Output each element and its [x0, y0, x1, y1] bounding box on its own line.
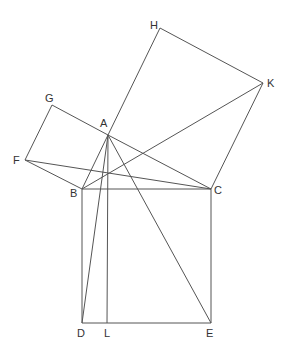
label-G: G: [45, 93, 54, 104]
label-D: D: [77, 328, 85, 339]
segment-AE: [108, 135, 211, 323]
label-B: B: [70, 188, 77, 199]
label-C: C: [214, 185, 222, 196]
segment-HK: [160, 28, 263, 83]
label-L: L: [104, 328, 110, 339]
label-H: H: [150, 20, 158, 31]
label-A: A: [100, 118, 107, 129]
segment-GF: [25, 105, 52, 160]
label-F: F: [13, 155, 20, 166]
segment-AL: [107, 135, 108, 323]
diagram-canvas: A B C D E L F G H K: [0, 0, 288, 355]
segment-KC: [211, 83, 263, 189]
segment-AD: [82, 135, 108, 323]
label-K: K: [267, 78, 274, 89]
geometry-figure: [0, 0, 288, 355]
segment-AH: [108, 28, 160, 135]
label-E: E: [206, 328, 213, 339]
